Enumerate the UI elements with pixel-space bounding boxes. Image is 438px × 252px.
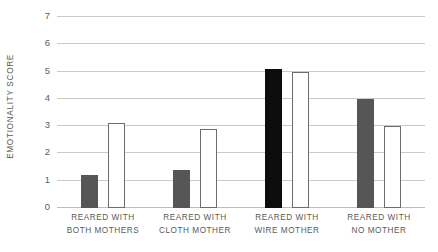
bar bbox=[265, 69, 282, 208]
plot-area: 01234567 bbox=[57, 17, 425, 208]
y-axis-tick-label: 0 bbox=[45, 202, 50, 212]
x-axis-group-label-line2: WIRE MOTHER bbox=[241, 225, 333, 238]
y-axis-title-text: EMOTIONALITY SCORE bbox=[6, 54, 15, 159]
x-axis-group-label-line2: CLOTH MOTHER bbox=[149, 225, 241, 238]
x-axis-group-label: REARED WITHBOTH MOTHERS bbox=[57, 212, 149, 237]
y-axis-title: EMOTIONALITY SCORE bbox=[0, 0, 20, 212]
bar bbox=[108, 123, 125, 208]
x-axis-group-labels: REARED WITHBOTH MOTHERSREARED WITHCLOTH … bbox=[57, 212, 425, 246]
y-axis-tick-label: 2 bbox=[45, 148, 50, 158]
bars-layer bbox=[57, 17, 425, 208]
bar bbox=[200, 129, 217, 208]
y-axis-tick-label: 7 bbox=[45, 11, 50, 21]
x-axis-group-label: REARED WITHWIRE MOTHER bbox=[241, 212, 333, 237]
x-axis-group-label-line1: REARED WITH bbox=[333, 212, 425, 225]
y-axis-tick-label: 1 bbox=[45, 175, 50, 185]
bar bbox=[384, 126, 401, 208]
x-axis-group-label-line2: BOTH MOTHERS bbox=[57, 225, 149, 238]
x-axis-group-label-line1: REARED WITH bbox=[241, 212, 333, 225]
x-axis-group-label: REARED WITHNO MOTHER bbox=[333, 212, 425, 237]
bar bbox=[173, 170, 190, 208]
y-axis-tick-label: 6 bbox=[45, 39, 50, 49]
emotionality-score-bar-chart: EMOTIONALITY SCORE 01234567 REARED WITHB… bbox=[0, 0, 438, 252]
x-axis-group-label-line1: REARED WITH bbox=[149, 212, 241, 225]
x-axis-group-label-line2: NO MOTHER bbox=[333, 225, 425, 238]
bar bbox=[81, 175, 98, 208]
bar bbox=[357, 99, 374, 208]
y-axis-tick-label: 5 bbox=[45, 66, 50, 76]
x-axis-group-label: REARED WITHCLOTH MOTHER bbox=[149, 212, 241, 237]
bar bbox=[292, 72, 309, 208]
x-axis-group-label-line1: REARED WITH bbox=[57, 212, 149, 225]
y-axis-tick-label: 4 bbox=[45, 93, 50, 103]
y-axis-tick-label: 3 bbox=[45, 120, 50, 130]
